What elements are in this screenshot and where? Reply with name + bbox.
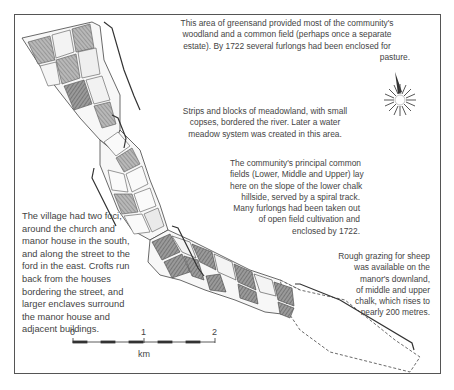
compass-rose-icon xyxy=(384,72,416,116)
village-annotation: The village had two foci, around the chu… xyxy=(22,210,152,336)
meadow-annotation: Strips and blocks of meadowland, with sm… xyxy=(170,106,360,140)
annotation-line: manor's downland, xyxy=(320,274,430,285)
annotation-line: manor house in the south, xyxy=(22,235,152,248)
scale-tick-2: 2 xyxy=(212,327,217,337)
annotation-line: of open field cultivation and xyxy=(230,214,360,225)
annotation-line: fields (Lower, Middle and Upper) lay xyxy=(230,169,360,180)
annotation-line: hillside, served by a spiral track. xyxy=(230,192,360,203)
annotation-line: around the church and xyxy=(22,223,152,236)
annotation-line: here on the slope of the lower chalk xyxy=(230,181,360,192)
annotation-line: estate). By 1722 several furlongs had be… xyxy=(142,41,432,52)
annotation-line: enclosed by 1722. xyxy=(230,226,360,237)
annotation-line: bordering the street, and xyxy=(22,286,152,299)
annotation-line: meadow system was created in this area. xyxy=(170,129,360,140)
annotation-line: nearly 200 metres. xyxy=(320,307,430,318)
annotation-line: adjacent buildings. xyxy=(22,323,152,336)
scale-unit: km xyxy=(138,349,150,359)
annotation-line: and along the street to the xyxy=(22,248,152,261)
annotation-line: pasture. xyxy=(142,52,432,63)
annotation-line: Strips and blocks of meadowland, with sm… xyxy=(170,106,360,117)
scale-tick-1: 1 xyxy=(141,327,146,337)
annotation-line: This area of greensand provided most of … xyxy=(142,18,432,29)
annotation-line: of middle and upper xyxy=(320,285,430,296)
annotation-line: was available on the xyxy=(320,262,430,273)
common-fields-annotation: The community's principal common fields … xyxy=(230,158,360,237)
annotation-line: Rough grazing for sheep xyxy=(320,251,430,262)
annotation-line: woodland and a common field (perhaps onc… xyxy=(142,29,432,40)
annotation-line: back from the houses xyxy=(22,273,152,286)
annotation-line: The village had two foci, xyxy=(22,210,152,223)
annotation-line: larger enclaves surround xyxy=(22,298,152,311)
annotation-line: Many furlongs had been taken out xyxy=(230,203,360,214)
downland-annotation: Rough grazing for sheep was available on… xyxy=(320,251,430,319)
woodland-annotation: This area of greensand provided most of … xyxy=(142,18,432,63)
annotation-line: the manor house and xyxy=(22,311,152,324)
annotation-line: The community's principal common xyxy=(230,158,360,169)
annotation-line: chalk, which rises to xyxy=(320,296,430,307)
annotation-line: ford in the east. Crofts run xyxy=(22,260,152,273)
scale-bar xyxy=(73,338,215,343)
scale-tick-0: 0 xyxy=(70,327,75,337)
annotation-line: copses, bordered the river. Later a wate… xyxy=(170,117,360,128)
